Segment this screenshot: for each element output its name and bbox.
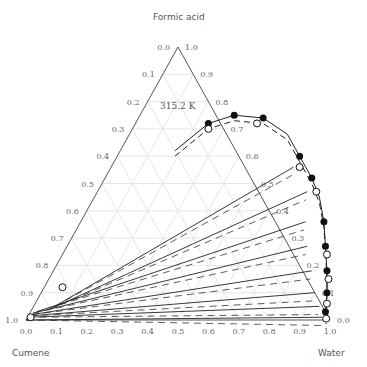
svg-text:0.0: 0.0 xyxy=(20,327,33,336)
svg-text:0.8: 0.8 xyxy=(215,98,228,107)
vertex-label-left: Cumene xyxy=(12,348,50,358)
svg-text:0.7: 0.7 xyxy=(231,125,244,134)
temperature-label: 315.2 K xyxy=(160,101,195,111)
svg-text:0.4: 0.4 xyxy=(141,327,154,336)
svg-text:0.9: 0.9 xyxy=(200,70,213,79)
svg-text:0.5: 0.5 xyxy=(261,180,274,189)
svg-text:0.8: 0.8 xyxy=(263,327,276,336)
plot-area: 0.00.00.00.10.10.10.20.20.20.30.30.30.40… xyxy=(0,0,367,367)
svg-text:0.3: 0.3 xyxy=(291,234,304,243)
svg-text:0.2: 0.2 xyxy=(127,98,140,107)
vertex-label-top: Formic acid xyxy=(153,12,205,22)
svg-text:0.7: 0.7 xyxy=(232,327,245,336)
svg-text:0.7: 0.7 xyxy=(51,234,64,243)
svg-text:0.5: 0.5 xyxy=(172,327,185,336)
svg-text:0.9: 0.9 xyxy=(293,327,306,336)
svg-text:0.5: 0.5 xyxy=(81,180,94,189)
svg-text:0.6: 0.6 xyxy=(66,207,79,216)
svg-text:0.1: 0.1 xyxy=(142,70,155,79)
svg-text:0.6: 0.6 xyxy=(202,327,215,336)
svg-text:0.4: 0.4 xyxy=(96,152,109,161)
svg-text:0.0: 0.0 xyxy=(337,316,350,325)
svg-text:0.0: 0.0 xyxy=(157,43,170,52)
vertex-label-right: Water xyxy=(318,348,345,358)
svg-text:0.9: 0.9 xyxy=(20,289,33,298)
ternary-chart: 0.00.00.00.10.10.10.20.20.20.30.30.30.40… xyxy=(0,0,367,367)
svg-text:1.0: 1.0 xyxy=(185,43,198,52)
svg-text:0.6: 0.6 xyxy=(246,152,259,161)
svg-text:0.2: 0.2 xyxy=(80,327,93,336)
svg-text:0.1: 0.1 xyxy=(50,327,63,336)
svg-text:1.0: 1.0 xyxy=(324,327,337,336)
svg-text:0.3: 0.3 xyxy=(111,327,124,336)
svg-text:0.3: 0.3 xyxy=(112,125,125,134)
svg-text:0.2: 0.2 xyxy=(307,261,320,270)
svg-text:0.8: 0.8 xyxy=(36,261,49,270)
svg-text:1.0: 1.0 xyxy=(5,316,18,325)
